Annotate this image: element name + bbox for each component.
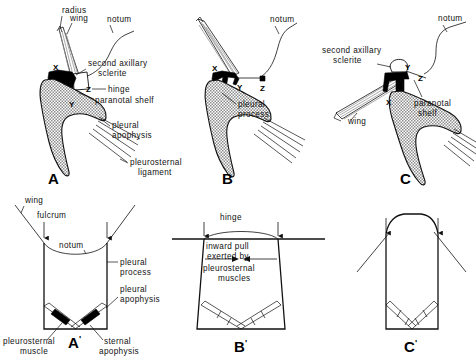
label-pleural-process-line1-B: pleural: [238, 100, 265, 109]
label-wing-A: wing: [69, 14, 88, 23]
panel-letter-A-prime: A: [68, 334, 79, 351]
label-second-axillary-line1-A: second axillary: [88, 59, 148, 68]
label-pleural-process-line2-B: process: [238, 110, 269, 119]
label-pleural-process-line2-A-prime: process: [120, 268, 151, 277]
panel-prime-A-prime: ': [79, 334, 81, 344]
label-pleurosternal-ligament-line2-A: ligament: [138, 168, 172, 177]
label-pull-line3-B-prime: pleurosternal: [203, 264, 255, 273]
label-notum-B: notum: [270, 15, 295, 24]
point-Y-A: Y: [69, 100, 75, 109]
label-wing-A-prime: wing: [24, 196, 43, 205]
panel-letter-C-prime: C: [404, 338, 415, 355]
label-pleural-apophysis-line1-A: pleural: [112, 121, 139, 130]
panel-letter-B-prime: B: [234, 338, 245, 355]
point-Y-C: Y: [405, 63, 411, 72]
label-pleural-process-line1-A-prime: pleural: [120, 258, 147, 267]
label-pleurosternal-muscle-line1-A-prime: pleurosternal: [3, 337, 55, 346]
label-paranotal-shelf-line2-C: shelf: [418, 109, 437, 118]
label-paranotal-shelf-line1-C: paranotal: [414, 99, 451, 108]
label-pleurosternal-muscle-line2-A-prime: muscle: [20, 347, 48, 356]
label-pleural-apophysis-line2-A: apophysis: [112, 131, 152, 140]
label-notum-C: notum: [438, 14, 463, 23]
label-fulcrum-A-prime: fulcrum: [37, 211, 66, 220]
label-notum-A-prime: notum: [59, 241, 84, 250]
label-second-axillary-line1-C: second axillary: [322, 46, 382, 55]
panel-letter-B: B: [222, 170, 233, 187]
panel-letter-A: A: [48, 170, 59, 187]
label-sternal-apophysis-line2-A-prime: apophysis: [99, 347, 139, 356]
point-Z-C: Z: [418, 74, 423, 83]
point-X-C: X: [386, 98, 392, 107]
label-pleural-apophysis-line1-A-prime: pleural: [120, 285, 147, 294]
figure-insect-wing-articulation: radius wing notum X Y Z second axillary …: [0, 0, 476, 360]
point-X-B: X: [212, 64, 218, 73]
point-Z-B: Z: [260, 84, 265, 93]
label-pleural-apophysis-line2-A-prime: apophysis: [120, 295, 160, 304]
label-sternal-apophysis-line1-A-prime: sternal: [104, 337, 131, 346]
label-second-axillary-line2-A: sclerite: [98, 69, 127, 78]
label-second-axillary-line2-C: sclerite: [333, 56, 362, 65]
point-X-A: X: [53, 63, 59, 72]
panel-prime-B-prime: ': [245, 338, 247, 348]
label-notum-A: notum: [107, 15, 132, 24]
label-pull-line1-B-prime: inward pull: [206, 242, 249, 251]
label-hinge-A: hinge: [108, 85, 130, 94]
hinge-point-Z-B: [260, 76, 265, 81]
panel-letter-C: C: [400, 170, 411, 187]
point-Y-B: Y: [237, 83, 243, 92]
label-hinge-B-prime: hinge: [220, 213, 242, 222]
point-Z-A: Z: [86, 85, 91, 94]
label-pleurosternal-ligament-line1-A: pleurosternal: [130, 158, 182, 167]
label-pull-line2-B-prime: exerted by: [207, 252, 249, 261]
label-wing-C: wing: [347, 117, 366, 126]
panel-prime-C-prime: ': [415, 338, 417, 348]
label-paranotal-shelf-A: paranotal shelf: [95, 96, 154, 105]
label-pull-line4-B-prime: muscles: [218, 274, 250, 283]
